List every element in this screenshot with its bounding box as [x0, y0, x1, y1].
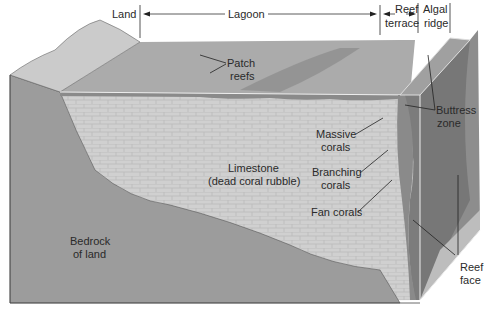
buttress-zone-label-2: zone: [437, 117, 461, 129]
zone-algal-ridge-label-2: ridge: [424, 17, 448, 29]
branching-corals-label-2: corals: [321, 179, 350, 191]
reef-cross-section-illustration: [0, 0, 487, 312]
zone-algal-ridge-label-1: Algal: [423, 3, 447, 15]
fan-corals-label: Fan corals: [311, 206, 362, 218]
bedrock-label-1: Bedrock: [70, 235, 110, 247]
reef-face-label-1: Reef: [460, 261, 483, 273]
zone-land-label: Land: [112, 8, 136, 20]
zone-lagoon-label: Lagoon: [228, 8, 265, 20]
reef-face-label-2: face: [460, 274, 481, 286]
limestone-label-1: Limestone: [228, 162, 279, 174]
massive-corals-label-1: Massive: [316, 128, 356, 140]
patch-reefs-label-1: Patch: [227, 57, 255, 69]
limestone-label-2: (dead coral rubble): [208, 175, 300, 187]
patch-reefs-label-2: reefs: [230, 70, 254, 82]
zone-reef-terrace-label-1: Reef: [395, 3, 407, 15]
buttress-zone-label-1: Buttress: [436, 104, 476, 116]
reef-diagram: Land Lagoon Reef terrace Algal ridge Pat…: [0, 0, 487, 312]
zone-reef-terrace-label-2: terrace: [385, 17, 419, 29]
branching-corals-label-1: Branching: [312, 166, 362, 178]
bedrock-label-2: of land: [73, 248, 106, 260]
massive-corals-label-2: corals: [321, 141, 350, 153]
